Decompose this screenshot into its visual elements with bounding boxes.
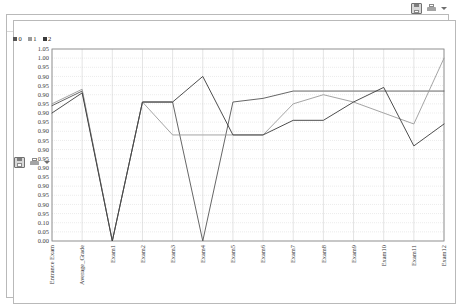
y-axis-tick-label: 0.95 bbox=[38, 155, 49, 162]
centroid-plot-chart: 1.051.000.950.900.950.900.950.900.950.90… bbox=[7, 45, 450, 297]
y-axis-tick-label: 1.00 bbox=[38, 54, 49, 61]
chart-legend: 0 1 2 bbox=[13, 35, 51, 42]
y-axis-tick-label: 0.95 bbox=[38, 82, 49, 89]
dropdown-caret-icon[interactable] bbox=[441, 7, 447, 10]
y-axis-tick-label: 0.90 bbox=[38, 201, 49, 208]
y-axis-tick-label: 0.95 bbox=[38, 118, 49, 125]
x-axis-tick-label: Exam9 bbox=[350, 245, 357, 263]
y-axis-tick-label: 0.90 bbox=[38, 182, 49, 189]
y-axis-tick-label: 0.10 bbox=[38, 219, 49, 226]
y-axis-tick-label: 0.00 bbox=[38, 237, 49, 244]
x-axis-tick-label: Entrance Exam bbox=[48, 245, 55, 284]
x-axis-tick-label: Exam3 bbox=[169, 245, 176, 263]
x-axis-tick-label: Exam11 bbox=[410, 245, 417, 266]
view-selector-toolbar: Text View Folder View Graph View Centroi… bbox=[7, 15, 448, 32]
x-axis-tick-label: Average_Grade bbox=[78, 245, 85, 285]
y-axis-tick-label: 0.05 bbox=[38, 228, 49, 235]
window-icon-strip bbox=[0, 0, 455, 14]
save-icon[interactable] bbox=[411, 3, 422, 14]
y-axis-tick-label: 0.90 bbox=[38, 73, 49, 80]
print-icon[interactable] bbox=[427, 4, 436, 13]
x-axis-tick-label: Exam1 bbox=[109, 245, 116, 263]
x-axis-tick-label: Exam8 bbox=[320, 245, 327, 263]
legend-item[interactable]: 0 bbox=[13, 35, 22, 42]
centroid-plot-panel: Text View Folder View Graph View Centroi… bbox=[6, 14, 449, 298]
y-axis-tick-label: 0.90 bbox=[38, 146, 49, 153]
y-axis-tick-label: 1.05 bbox=[38, 45, 49, 52]
y-axis-tick-label: 0.95 bbox=[38, 173, 49, 180]
y-axis-tick-label: 0.95 bbox=[38, 100, 49, 107]
x-axis-tick-label: Exam7 bbox=[289, 244, 296, 263]
x-axis-tick-label: Exam4 bbox=[199, 244, 206, 263]
y-axis-tick-label: 0.90 bbox=[38, 109, 49, 116]
y-axis-tick-label: 0.95 bbox=[38, 191, 49, 198]
y-axis-tick-label: 0.90 bbox=[38, 91, 49, 98]
legend-label: 0 bbox=[19, 35, 22, 42]
y-axis-tick-label: 0.95 bbox=[38, 137, 49, 144]
legend-label: 1 bbox=[33, 35, 36, 42]
y-axis-tick-label: 0.90 bbox=[38, 164, 49, 171]
legend-swatch-icon bbox=[43, 37, 47, 41]
chart-canvas: 1.051.000.950.900.950.900.950.900.950.90… bbox=[7, 45, 450, 297]
top-toolbar-icons bbox=[411, 3, 447, 14]
legend-item[interactable]: 2 bbox=[43, 35, 52, 42]
legend-label: 2 bbox=[48, 35, 51, 42]
legend-item[interactable]: 1 bbox=[28, 35, 37, 42]
x-axis-tick-label: Exam10 bbox=[380, 245, 387, 266]
y-axis-tick-label: 0.90 bbox=[38, 127, 49, 134]
x-axis-tick-label: Exam5 bbox=[229, 245, 236, 263]
y-axis-tick-label: 0.95 bbox=[38, 210, 49, 217]
x-axis-tick-label: Exam12 bbox=[440, 245, 447, 266]
y-axis-tick-label: 0.95 bbox=[38, 63, 49, 70]
legend-swatch-icon bbox=[28, 37, 32, 41]
legend-swatch-icon bbox=[13, 37, 17, 41]
x-axis-tick-label: Exam2 bbox=[139, 245, 146, 263]
x-axis-tick-label: Exam6 bbox=[259, 245, 266, 263]
